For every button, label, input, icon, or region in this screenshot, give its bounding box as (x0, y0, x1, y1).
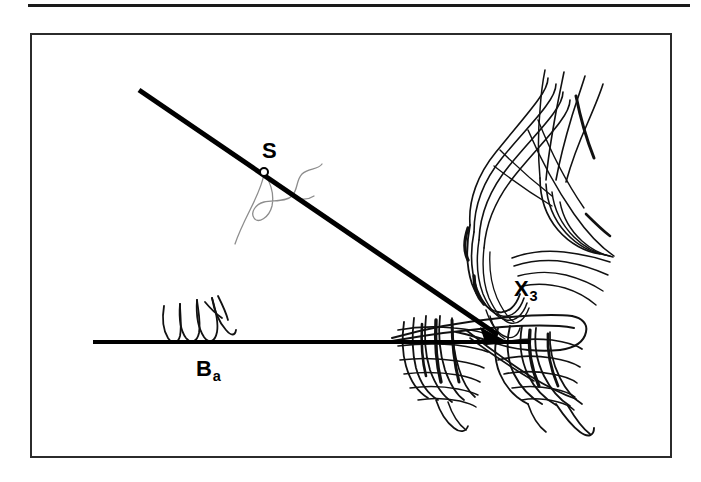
label-s: S (262, 140, 277, 162)
label-x3: X3 (514, 278, 537, 300)
label-ba-base: B (196, 356, 212, 381)
label-s-base: S (262, 138, 277, 163)
page-top-rule (28, 4, 690, 7)
label-x3-subscript: 3 (530, 288, 538, 304)
figure-border (30, 33, 672, 458)
label-ba-subscript: a (213, 368, 221, 384)
label-ba: Ba (196, 358, 220, 380)
figure-page: S X3 Ba (0, 0, 701, 482)
label-x3-base: X (514, 276, 529, 301)
